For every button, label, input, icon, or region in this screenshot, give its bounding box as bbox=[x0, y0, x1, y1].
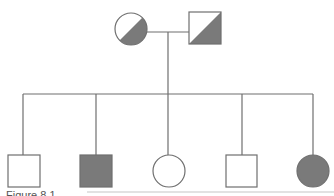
caption-rule bbox=[87, 191, 334, 193]
child-5-affected-female bbox=[297, 155, 329, 187]
father-symbol bbox=[189, 12, 221, 44]
child-4-unaffected-male bbox=[226, 155, 257, 187]
figure-caption: Figure 8.1 bbox=[6, 189, 56, 196]
child-3-unaffected-female bbox=[153, 155, 185, 187]
child-1-unaffected-male bbox=[8, 155, 40, 187]
carrier-shading bbox=[100, 0, 160, 60]
pedigree-chart bbox=[0, 0, 334, 196]
child-2-affected-male bbox=[80, 155, 112, 187]
mother-symbol bbox=[100, 0, 160, 60]
